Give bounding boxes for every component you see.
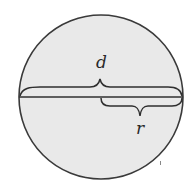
- speck-mark: [160, 161, 161, 165]
- radius-label: r: [136, 118, 145, 138]
- circle-diagram: d r: [0, 0, 193, 189]
- diameter-label: d: [96, 52, 107, 72]
